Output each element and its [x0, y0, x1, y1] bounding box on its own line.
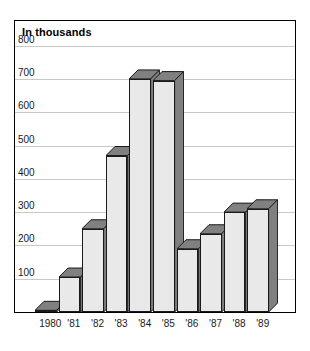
bar-front-face: [153, 81, 175, 312]
bar-series: [15, 21, 295, 313]
bar-front-face: [247, 209, 269, 312]
x-axis-tick-labels: 1980'81'82'83'84'85'86'87'88'89: [14, 318, 296, 336]
bar-front-face: [59, 277, 81, 312]
bar-front-face: [200, 234, 222, 312]
bar-front-face: [129, 79, 151, 312]
x-axis-baseline: [15, 312, 295, 313]
bar-front-face: [82, 229, 104, 312]
bar-front-face: [177, 249, 199, 312]
bar-chart: In thousands 100200300400500600700800 19…: [0, 0, 310, 351]
x-axis-tick-label: '89: [239, 318, 287, 330]
plot-area: 100200300400500600700800: [15, 21, 295, 313]
bar-front-face: [224, 212, 246, 312]
bar: [247, 21, 278, 313]
bar-front-face: [106, 156, 128, 312]
